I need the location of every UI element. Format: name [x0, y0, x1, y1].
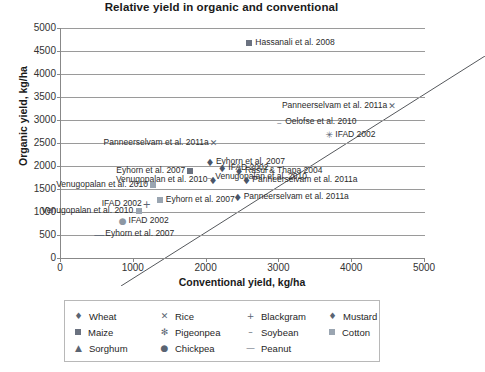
x-tick-3000	[278, 258, 279, 262]
legend-label: Maize	[88, 327, 113, 338]
point-annotation: Panneerselvam et al. 2011a	[252, 175, 357, 184]
data-point-soybean: –	[277, 117, 282, 126]
legend-item-chickpea: ●Chickpea	[159, 343, 245, 354]
legend-item-wheat: ♦Wheat	[73, 311, 159, 322]
data-point-maize	[187, 168, 193, 174]
legend: ♦Wheat✕Rice+Blackgram♦MustardMaize✻Pigeo…	[64, 300, 380, 362]
legend-label: Wheat	[89, 311, 116, 322]
legend-symbol-chickpea-icon: ●	[159, 343, 170, 353]
legend-item-cotton: Cotton	[327, 327, 389, 338]
y-axis-title: Organic yield, kg/ha	[17, 41, 29, 191]
x-tick-label-0: 0	[40, 262, 80, 273]
legend-symbol-peanut-icon: —	[245, 343, 256, 353]
gridline-y-3500	[61, 97, 425, 98]
data-point-wheat: ♦	[205, 158, 214, 167]
y-tick-label-5000: 5000	[22, 23, 56, 33]
legend-label: Sorghum	[89, 343, 128, 354]
y-tick-4000	[57, 74, 61, 75]
legend-symbol-pigeonpea-icon: ✻	[159, 327, 170, 337]
y-tick-3500	[57, 97, 61, 98]
gridline-y-3000	[61, 120, 425, 121]
legend-item-pigeonpea: ✻Pigeonpea	[159, 327, 245, 338]
point-annotation: IFAD 2002	[335, 130, 375, 139]
data-point-peanut: —	[94, 230, 105, 239]
gridline-y-4000	[61, 74, 425, 75]
page-title: Relative yield in organic and convention…	[0, 1, 443, 13]
legend-label: Pigeonpea	[175, 327, 220, 338]
x-tick-2000	[206, 258, 207, 262]
x-tick-label-3000: 3000	[258, 262, 298, 273]
x-tick-5000	[424, 258, 425, 262]
point-annotation: IFAD 2002	[129, 216, 169, 225]
data-point-wheat: ♦	[242, 175, 251, 184]
y-tick-label-500: 500	[22, 230, 56, 240]
gridline-y-4500	[61, 51, 425, 52]
legend-label: Rice	[175, 311, 194, 322]
legend-item-soybean: –Soybean	[245, 327, 327, 338]
data-point-rice: ✕	[210, 139, 218, 148]
legend-label: Chickpea	[175, 343, 215, 354]
data-point-cotton	[136, 208, 142, 214]
y-tick-3000	[57, 120, 61, 121]
x-tick-0	[60, 258, 61, 262]
legend-item-peanut: —Peanut	[245, 343, 327, 354]
point-annotation: Venugopalan et al. 2010	[116, 175, 208, 184]
legend-symbol-rice-icon: ✕	[159, 311, 170, 321]
x-tick-label-5000: 5000	[404, 262, 444, 273]
legend-item-mustard: ♦Mustard	[327, 311, 389, 322]
legend-symbol-cotton-icon	[329, 329, 335, 335]
x-tick-label-1000: 1000	[113, 262, 153, 273]
x-tick-1000	[133, 258, 134, 262]
legend-grid: ♦Wheat✕Rice+Blackgram♦MustardMaize✻Pigeo…	[73, 308, 389, 356]
data-point-blackgram: +	[142, 199, 150, 208]
legend-symbol-mustard-icon: ♦	[327, 311, 338, 321]
point-annotation: Eyhorn et al. 2007	[166, 195, 235, 204]
x-tick-label-4000: 4000	[331, 262, 371, 273]
legend-item-rice: ✕Rice	[159, 311, 245, 322]
data-point-cotton	[157, 197, 163, 203]
y-tick-2000	[57, 166, 61, 167]
legend-symbol-sorghum-icon: ▲	[73, 343, 84, 353]
legend-label: Blackgram	[261, 311, 306, 322]
legend-symbol-maize-icon	[75, 329, 81, 335]
data-point-wheat: ♦	[208, 175, 217, 184]
x-axis-line	[60, 258, 424, 259]
x-tick-label-2000: 2000	[186, 262, 226, 273]
point-annotation: Eyhorn et al. 2007	[105, 229, 174, 238]
data-point-pigeonpea: ✳	[326, 130, 334, 139]
legend-label: Cotton	[342, 327, 370, 338]
legend-item-sorghum: ▲Sorghum	[73, 343, 159, 354]
data-point-chickpea: ●	[119, 217, 127, 226]
point-annotation: Hassanali et al. 2008	[255, 38, 334, 47]
legend-label: Mustard	[343, 311, 377, 322]
y-tick-500	[57, 235, 61, 236]
legend-symbol-soybean-icon: –	[245, 327, 256, 337]
legend-symbol-blackgram-icon: +	[245, 311, 256, 321]
data-point-rice: ✕	[388, 102, 396, 111]
legend-item-maize: Maize	[73, 327, 159, 338]
x-tick-4000	[351, 258, 352, 262]
y-tick-4500	[57, 51, 61, 52]
data-point-maize	[246, 40, 252, 46]
point-annotation: Panneerselvam et al. 2011a	[244, 192, 349, 201]
y-tick-2500	[57, 143, 61, 144]
y-tick-5000	[57, 28, 61, 29]
point-annotation: Oelofse et al. 2010	[285, 117, 356, 126]
legend-symbol-wheat-icon: ♦	[73, 311, 84, 321]
gridline-y-5000	[61, 28, 425, 29]
legend-item-blackgram: +Blackgram	[245, 311, 327, 322]
x-axis-title: Conventional yield, kg/ha	[60, 276, 424, 288]
legend-label: Peanut	[261, 343, 291, 354]
point-annotation: Venugopalan et al. 2010	[42, 206, 134, 215]
point-annotation: Panneerselvam et al. 2011a	[104, 138, 209, 147]
point-annotation: Panneerselvam et al. 2011a	[282, 101, 387, 110]
legend-label: Soybean	[261, 327, 299, 338]
